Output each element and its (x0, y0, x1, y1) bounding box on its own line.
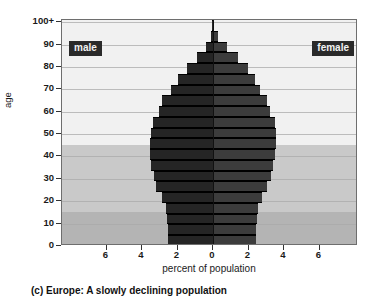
bar-male-65-69 (162, 95, 213, 106)
y-axis-tick (56, 21, 61, 22)
x-axis-label: 2 (162, 250, 192, 260)
x-axis-label: 6 (91, 250, 121, 260)
bar-male-20-24 (162, 192, 213, 203)
y-axis-tick (56, 44, 61, 45)
bar-male-10-14 (167, 214, 213, 225)
y-axis-label-30: 30 (43, 173, 54, 183)
legend-male: male (69, 41, 102, 56)
y-axis-tick (56, 178, 61, 179)
x-axis-title: percent of population (61, 263, 357, 274)
y-axis-tick (56, 88, 61, 89)
y-axis-tick (56, 200, 61, 201)
bar-female-5-9 (213, 224, 256, 235)
bar-female-10-14 (213, 214, 257, 225)
bar-female-30-34 (213, 171, 271, 182)
y-axis-label-60: 60 (43, 106, 54, 116)
y-axis-tick (56, 111, 61, 112)
y-axis-label-0: 0 (49, 240, 54, 250)
bar-female-55-59 (213, 117, 275, 128)
x-axis-label: 4 (126, 250, 156, 260)
bar-male-30-34 (154, 171, 213, 182)
bar-female-50-54 (213, 128, 276, 139)
y-axis-tick (56, 66, 61, 67)
y-axis-label-70: 70 (43, 83, 54, 93)
population-pyramid-figure: Europe 2015 age 0102030405060708090100+ … (0, 0, 373, 304)
y-axis-tick (56, 133, 61, 134)
bar-female-15-19 (213, 203, 258, 214)
bar-female-40-44 (213, 149, 275, 160)
bar-female-90-94 (213, 42, 227, 53)
bar-male-80-84 (187, 63, 213, 74)
bar-male-85-89 (197, 52, 213, 63)
bar-female-35-39 (213, 160, 273, 171)
bar-female-0-4 (213, 235, 256, 245)
bar-male-0-4 (168, 235, 213, 245)
figure-caption: (c) Europe: A slowly declining populatio… (31, 285, 227, 296)
y-axis-label-10: 10 (43, 218, 54, 228)
gridline (62, 22, 356, 23)
y-axis-label-90: 90 (43, 39, 54, 49)
bar-male-25-29 (156, 181, 213, 192)
y-axis-label-100+: 100+ (33, 16, 54, 26)
x-axis-label: 0 (197, 250, 227, 260)
y-axis-label-80: 80 (43, 61, 54, 71)
bar-male-55-59 (153, 117, 213, 128)
bar-female-45-49 (213, 138, 276, 149)
x-axis-label: 6 (304, 250, 334, 260)
bar-female-60-64 (213, 106, 270, 117)
y-axis-label-50: 50 (43, 128, 54, 138)
y-axis-tick (56, 223, 61, 224)
bar-male-40-44 (150, 149, 213, 160)
bar-female-65-69 (213, 95, 267, 106)
bar-male-60-64 (159, 106, 213, 117)
bar-male-75-79 (178, 74, 213, 85)
bar-female-80-84 (213, 63, 248, 74)
x-axis-label: 4 (268, 250, 298, 260)
bar-male-45-49 (150, 138, 213, 149)
y-axis-tick (56, 245, 61, 246)
y-axis-label-20: 20 (43, 195, 54, 205)
bar-male-5-9 (168, 224, 213, 235)
bar-male-70-74 (171, 85, 213, 96)
bar-female-70-74 (213, 85, 260, 96)
x-axis-label: 2 (233, 250, 263, 260)
legend-female: female (312, 41, 354, 56)
bar-male-50-54 (151, 128, 213, 139)
y-axis-title: age (2, 92, 13, 108)
bar-male-35-39 (151, 160, 213, 171)
bar-female-75-79 (213, 74, 255, 85)
bar-female-85-89 (213, 52, 238, 63)
bar-female-25-29 (213, 181, 267, 192)
center-axis-line (213, 20, 214, 244)
y-axis-label-40: 40 (43, 150, 54, 160)
y-axis-tick (56, 155, 61, 156)
bar-male-15-19 (166, 203, 213, 214)
bar-male-90-94 (206, 42, 213, 53)
bar-female-20-24 (213, 192, 262, 203)
